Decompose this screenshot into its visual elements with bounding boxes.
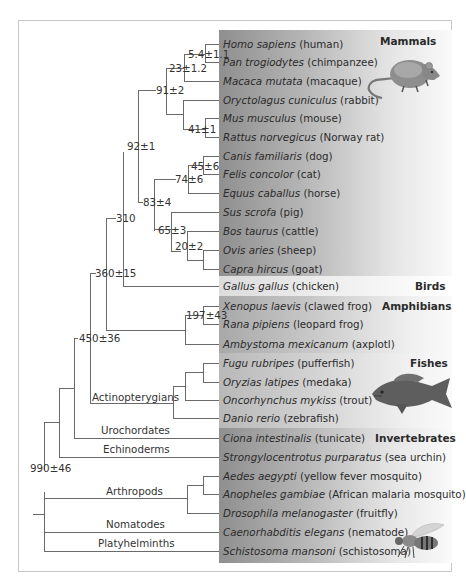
- taxon-label: Macaca mutata (macaque): [223, 75, 362, 87]
- node-label: 23±1.2: [169, 62, 207, 74]
- taxon-label: Capra hircus (goat): [223, 263, 323, 275]
- bee-icon: [390, 521, 446, 561]
- taxon-label: Strongylocentrotus purparatus (sea urchi…: [223, 451, 446, 463]
- taxon-label: Oryctolagus cuniculus (rabbit): [223, 94, 379, 106]
- taxon-label: Xenopus laevis (clawed frog): [223, 300, 372, 312]
- taxon-label: Sus scrofa (pig): [223, 206, 303, 218]
- taxon-label: Rana pipiens (leopard frog): [223, 318, 364, 330]
- group-label-mammals: Mammals: [380, 35, 436, 47]
- node-label: 65±3: [158, 224, 186, 236]
- taxon-label: Ambystoma mexicanum (axplotl): [223, 338, 395, 350]
- node-label: 41±1: [188, 123, 216, 135]
- node-label: 990±46: [30, 462, 71, 474]
- taxon-label: Pan trogiodytes (chimpanzee): [223, 56, 378, 68]
- taxon-label: Schistosoma mansoni (schistosoma): [223, 545, 411, 557]
- clade-platyhelminths: Platyhelminths: [98, 537, 175, 549]
- group-label-invertebrates: Invertebrates: [375, 432, 456, 444]
- taxon-label: Anopheles gambiae (African malaria mosqu…: [223, 488, 466, 500]
- taxon-label: Ovis aries (sheep): [223, 244, 316, 256]
- taxon-label: Caenorhabditis elegans (nematode): [223, 526, 408, 538]
- clade-nomatodes: Nomatodes: [106, 518, 165, 530]
- node-label: 450±36: [79, 332, 120, 344]
- node-label: 92±1: [127, 140, 155, 152]
- node-label: 83±4: [143, 196, 171, 208]
- clade-urochordates: Urochordates: [101, 424, 170, 436]
- taxon-label: Danio rerio (zebrafish): [223, 412, 339, 424]
- taxon-label: Equus caballus (horse): [223, 187, 340, 199]
- group-label-amphibians: Amphibians: [382, 300, 452, 312]
- node-label: 197±43: [186, 309, 227, 321]
- taxon-label: Oncorhynchus mykiss (trout): [223, 394, 372, 406]
- node-label: 91±2: [156, 84, 184, 96]
- taxon-label: Oryzias latipes (medaka): [223, 376, 352, 388]
- taxon-label: Gallus gallus (chicken): [223, 280, 339, 292]
- taxon-label: Mus musculus (mouse): [223, 112, 342, 124]
- taxon-label: Fugu rubripes (pufferfish): [223, 357, 354, 369]
- node-label: 310: [116, 212, 136, 224]
- taxon-label: Aedes aegypti (yellow fever mosquito): [223, 470, 422, 482]
- clade-echinoderms: Echinoderms: [103, 443, 170, 455]
- taxon-label: Canis familiaris (dog): [223, 150, 333, 162]
- taxon-label: Bos taurus (cattle): [223, 225, 319, 237]
- node-label: 45±6: [191, 160, 219, 172]
- clade-arthropods: Arthropods: [106, 485, 163, 497]
- taxon-label: Ciona intestinalis (tunicate): [223, 432, 365, 444]
- group-label-birds: Birds: [415, 280, 446, 292]
- clade-actinopterygians: Actinopterygians: [92, 391, 179, 403]
- taxon-label: Rattus norvegicus (Norway rat): [223, 131, 384, 143]
- mouse-icon: [364, 50, 444, 102]
- group-label-fishes: Fishes: [410, 357, 448, 369]
- node-label: 20±2: [175, 240, 203, 252]
- fish-icon: [366, 370, 456, 416]
- taxon-label: Drosophila melanogaster (fruitfly): [223, 507, 398, 519]
- taxon-label: Homo sapiens (human): [223, 38, 343, 50]
- node-label: 360±15: [95, 267, 136, 279]
- node-label: 74±6: [175, 173, 203, 185]
- taxon-label: Felis concolor (cat): [223, 168, 321, 180]
